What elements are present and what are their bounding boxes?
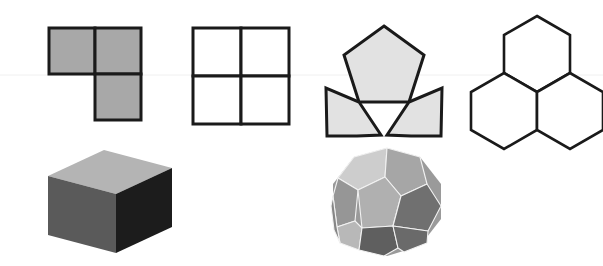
figure-canvas: L-tromino of three shaded squares Two-by… — [0, 0, 603, 266]
tromino-square-bottom-right — [95, 74, 141, 120]
quad-square-top-left — [193, 28, 241, 76]
quad-square-top-right — [241, 28, 289, 76]
tromino-square-top-left — [49, 28, 95, 74]
dodecahedron-face-bottom — [359, 226, 398, 256]
tromino-square-top-right — [95, 28, 141, 74]
geometry-figure-svg: L-tromino of three shaded squares Two-by… — [0, 0, 603, 266]
square-quad: Two-by-two grid of four white squares — [193, 28, 289, 124]
quad-square-bottom-left — [193, 76, 241, 124]
quad-square-bottom-right — [241, 76, 289, 124]
